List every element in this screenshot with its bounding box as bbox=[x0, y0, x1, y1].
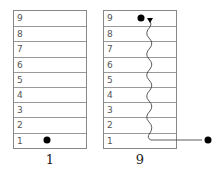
left-marker-dot bbox=[44, 137, 51, 144]
arrowhead-icon bbox=[147, 18, 153, 23]
external-marker-dot bbox=[205, 137, 212, 144]
diagram-overlay bbox=[0, 0, 223, 176]
right-marker-dot-top bbox=[138, 15, 145, 22]
wavy-path-arrow bbox=[147, 21, 202, 140]
